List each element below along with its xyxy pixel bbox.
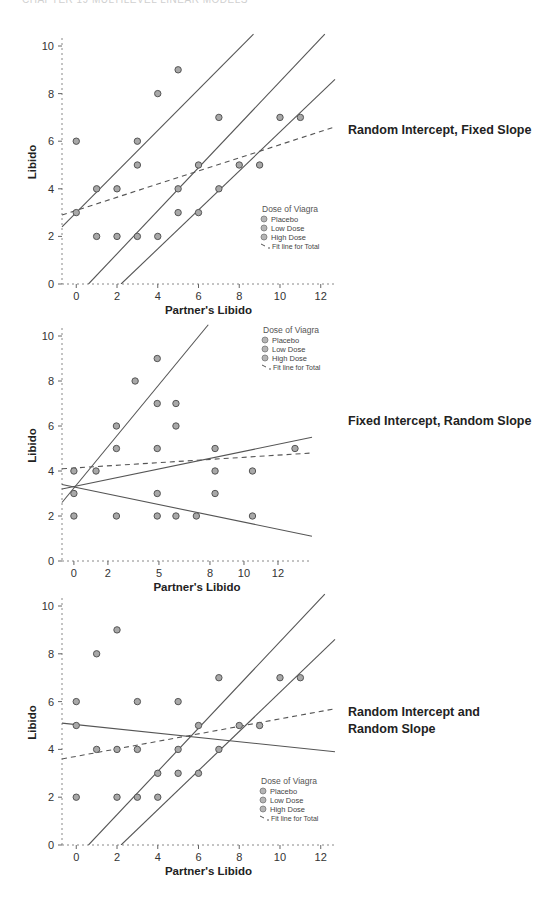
- data-point: [195, 722, 201, 728]
- data-point: [134, 794, 140, 800]
- legend-marker-icon: [260, 797, 266, 803]
- x-tick-label: 4: [155, 851, 161, 863]
- x-tick-label: 8: [236, 851, 242, 863]
- data-point: [73, 698, 79, 704]
- data-point: [216, 675, 222, 681]
- data-point: [73, 722, 79, 728]
- y-tick-label: 2: [48, 791, 54, 803]
- fit-lines: [62, 594, 335, 845]
- data-point: [134, 698, 140, 704]
- data-point: [175, 770, 181, 776]
- data-points: [73, 627, 304, 801]
- chart-panel-random-intercept-random-slope: 0246810024681012Partner's LibidoLibidoDo…: [0, 0, 543, 905]
- x-tick-label: 6: [195, 851, 201, 863]
- legend-marker-icon: [260, 788, 266, 794]
- x-tick-label: 10: [274, 851, 286, 863]
- legend-item: High Dose: [270, 805, 305, 814]
- y-tick-label: 0: [48, 839, 54, 851]
- data-point: [256, 722, 262, 728]
- plot-area: 0246810024681012Partner's LibidoLibido: [26, 598, 335, 877]
- data-point: [297, 675, 303, 681]
- data-point: [114, 794, 120, 800]
- x-tick-label: 2: [114, 851, 120, 863]
- x-tick-label: 12: [315, 851, 327, 863]
- total-fit-line: [62, 709, 335, 759]
- legend-item: Placebo: [270, 787, 297, 796]
- data-point: [114, 746, 120, 752]
- y-tick-label: 8: [48, 648, 54, 660]
- legend-item: Low Dose: [270, 796, 303, 805]
- legend-title: Dose of Viagra: [261, 776, 317, 786]
- scatter-plot: 0246810024681012Partner's LibidoLibidoDo…: [0, 0, 340, 905]
- data-point: [134, 746, 140, 752]
- y-tick-label: 6: [48, 696, 54, 708]
- group-fit-line: [62, 723, 335, 752]
- group-fit-line: [88, 594, 324, 845]
- group-fit-line: [121, 639, 335, 845]
- data-point: [175, 698, 181, 704]
- data-point: [155, 770, 161, 776]
- y-tick-label: 10: [42, 600, 54, 612]
- y-tick-label: 4: [48, 743, 54, 755]
- data-point: [175, 746, 181, 752]
- data-point: [195, 770, 201, 776]
- legend-item: Fit line for Total: [271, 815, 319, 822]
- x-axis-label: Partner's Libido: [165, 865, 252, 877]
- data-point: [93, 651, 99, 657]
- data-point: [277, 675, 283, 681]
- data-point: [73, 794, 79, 800]
- data-point: [155, 794, 161, 800]
- x-tick-label: 0: [73, 851, 79, 863]
- y-axis-label: Libido: [26, 705, 38, 740]
- legend: Dose of ViagraPlaceboLow DoseHigh DoseFi…: [260, 776, 319, 822]
- data-point: [216, 746, 222, 752]
- legend-dash-icon: [260, 816, 264, 818]
- data-point: [236, 722, 242, 728]
- data-point: [93, 746, 99, 752]
- legend-marker-icon: [260, 806, 266, 812]
- panel-title: Random Intercept and Random Slope: [348, 704, 533, 738]
- data-point: [114, 627, 120, 633]
